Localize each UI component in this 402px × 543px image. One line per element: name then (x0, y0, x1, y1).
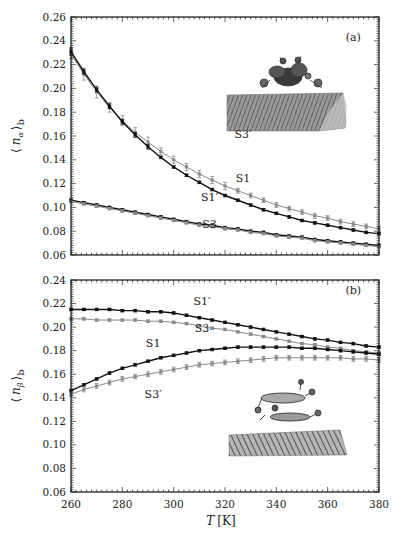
y-tick-label: 0.16 (43, 368, 67, 380)
data-point (288, 236, 291, 239)
angle-open: ⟨ (9, 398, 23, 403)
data-point (82, 308, 85, 311)
data-point (134, 375, 137, 378)
data-point (211, 348, 214, 351)
data-point (300, 237, 303, 240)
x-tick-label: 340 (266, 498, 286, 510)
data-point (121, 120, 124, 123)
panel-tag: (a) (346, 31, 361, 44)
data-point (159, 150, 162, 153)
data-point (172, 219, 175, 222)
data-point (288, 333, 291, 336)
data-point (236, 199, 239, 202)
data-point (198, 172, 201, 175)
x-tick-label: 380 (369, 498, 389, 510)
data-point (172, 165, 175, 168)
series-line (71, 54, 379, 229)
data-point (236, 189, 239, 192)
data-point (146, 360, 149, 363)
data-point (146, 310, 149, 313)
data-point (352, 228, 355, 231)
data-point (288, 215, 291, 218)
data-point (134, 212, 137, 215)
angle-open: ⟨ (9, 148, 23, 153)
series-annotation: S1 (236, 172, 251, 185)
series-annotation: S1′ (193, 295, 211, 308)
x-tick-label: 300 (164, 498, 184, 510)
data-point (172, 354, 175, 357)
y-tick-label: 0.10 (43, 438, 66, 450)
y-tick-label: 0.14 (43, 153, 67, 165)
data-point (352, 357, 355, 360)
y-tick-label: 0.06 (43, 249, 67, 261)
data-point (300, 335, 303, 338)
data-point (275, 203, 278, 206)
data-point (326, 338, 329, 341)
x-tick-label: 360 (318, 498, 338, 510)
data-point (236, 360, 239, 363)
data-point (172, 158, 175, 161)
data-point (159, 320, 162, 323)
data-point (82, 70, 85, 73)
data-point (211, 318, 214, 321)
data-point (275, 212, 278, 215)
data-point (146, 214, 149, 217)
plot-frame-b (71, 280, 379, 492)
data-point (121, 318, 124, 321)
inset-molecule-image-a (227, 56, 347, 131)
y-tick-label: 0.26 (43, 11, 67, 23)
data-point (185, 174, 188, 177)
data-point (159, 356, 162, 359)
data-point (326, 240, 329, 243)
data-point (121, 309, 124, 312)
data-point (288, 346, 291, 349)
data-point (223, 194, 226, 197)
y-tick-label: 0.12 (43, 415, 66, 427)
y-tick-label: 0.16 (43, 130, 67, 142)
y-tick-label: 0.14 (43, 391, 67, 403)
y-tick-label: 0.22 (43, 58, 66, 70)
data-point (146, 373, 149, 376)
data-point (313, 347, 316, 350)
data-point (121, 377, 124, 380)
data-point (236, 346, 239, 349)
data-point (95, 384, 98, 387)
y-tick-label: 0.24 (43, 34, 67, 46)
data-point (300, 356, 303, 359)
data-point (275, 330, 278, 333)
data-point (172, 321, 175, 324)
data-point (198, 363, 201, 366)
y-axis-label-text-a: ⟨nα⟩b (9, 119, 26, 153)
data-point (134, 133, 137, 136)
y-tick-label: 0.24 (43, 274, 67, 286)
data-point (159, 310, 162, 313)
data-point (211, 362, 214, 365)
surface-slab (229, 430, 347, 456)
data-point (198, 224, 201, 227)
panel-a: 0.060.080.100.120.140.160.180.200.220.24… (9, 11, 381, 261)
data-point (262, 335, 265, 338)
data-point (326, 224, 329, 227)
data-point (352, 350, 355, 353)
data-point (288, 207, 291, 210)
y-axis-label-text-b: ⟨nβ⟩b (9, 369, 26, 402)
data-point (95, 88, 98, 91)
data-point (262, 346, 265, 349)
panel-b: 0.060.080.100.120.140.160.180.200.220.24… (9, 274, 389, 529)
data-point (249, 203, 252, 206)
data-point (95, 377, 98, 380)
data-point (223, 347, 226, 350)
y-axis-label-a: ⟨nα⟩b (9, 119, 26, 153)
data-point (134, 363, 137, 366)
data-point (339, 242, 342, 245)
data-point (185, 351, 188, 354)
series-annotation: S3′ (234, 128, 252, 141)
data-point (249, 231, 252, 234)
series-annotation: S3 (202, 218, 217, 231)
data-point (146, 320, 149, 323)
data-point (185, 314, 188, 317)
data-point (108, 381, 111, 384)
data-point (159, 370, 162, 373)
data-point (159, 156, 162, 159)
data-point (313, 221, 316, 224)
